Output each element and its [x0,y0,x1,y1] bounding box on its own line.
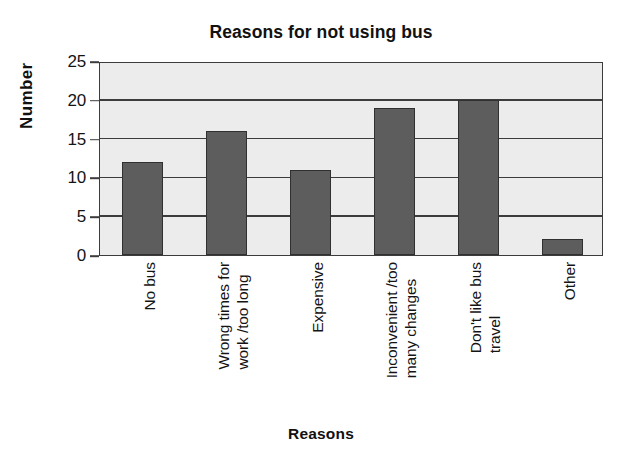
x-tick-label: Other [561,262,580,300]
bar [458,100,499,255]
y-tick-label: 0 [40,246,86,266]
x-tick-label-line: Don't like bus [467,262,484,353]
x-tick-label-line: many changes [402,262,421,378]
bar [122,162,163,255]
x-tick-label: Inconvenient /toomany changes [383,262,420,378]
bar [542,239,583,255]
x-tick-label: Wrong times forwork /too long [215,262,252,370]
x-axis-title: Reasons [0,425,642,443]
y-tick-mark [90,255,99,257]
plot-area [99,62,603,256]
y-tick-mark [90,100,99,102]
x-tick-label-line: Other [561,262,578,300]
y-tick-label: 25 [40,52,86,72]
x-tick-label: Expensive [309,262,328,333]
gridline [100,215,602,217]
gridline [100,177,602,179]
bar [206,131,247,255]
y-tick-label: 10 [40,168,86,188]
gridline [100,99,602,101]
y-tick-mark [90,178,99,180]
y-tick-label: 20 [40,91,86,111]
x-tick-label-line: Inconvenient /too [383,262,400,378]
bar [290,170,331,255]
chart-title: Reasons for not using bus [0,22,642,43]
y-axis-title: Number [17,9,39,129]
x-tick-label-line: travel [486,262,505,353]
y-tick-label: 5 [40,207,86,227]
y-tick-mark [90,216,99,218]
bar [374,108,415,255]
x-tick-label-line: Expensive [309,262,326,333]
x-tick-label-line: Wrong times for [215,262,232,370]
x-tick-label: No bus [141,262,160,311]
y-tick-label: 15 [40,130,86,150]
x-tick-label-line: work /too long [234,262,253,370]
y-axis-ticks: 0510152025 [42,62,99,256]
bar-chart-figure: Reasons for not using bus Number 0510152… [0,0,642,457]
y-tick-mark [90,139,99,141]
x-axis-category-labels: No busWrong times forwork /too longExpen… [99,262,603,412]
x-tick-label-line: No bus [141,262,158,311]
x-tick-label: Don't like bustravel [467,262,504,353]
y-tick-mark [90,61,99,63]
gridline [100,138,602,140]
